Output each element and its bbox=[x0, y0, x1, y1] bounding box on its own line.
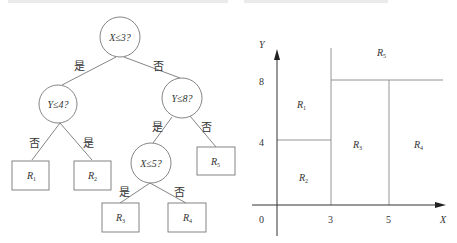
leaf-r1: R1 bbox=[12, 161, 49, 190]
leaf-r2: R2 bbox=[74, 161, 111, 190]
leaf-r3: R3 bbox=[102, 203, 139, 232]
edge-label-no: 否 bbox=[174, 186, 185, 199]
edge-label-yes: 是 bbox=[74, 60, 85, 73]
x-axis-arrow-icon bbox=[435, 202, 446, 208]
edge-label-yes: 是 bbox=[83, 137, 94, 150]
origin-label: 0 bbox=[259, 214, 264, 225]
tree-node-root: X≤3? bbox=[100, 17, 140, 57]
y-axis-arrow-icon bbox=[274, 49, 280, 60]
partition-plot: Y X 0 3 5 8 4 R1 R2 R3 R4 R5 bbox=[252, 39, 447, 236]
node-label: Y≤4? bbox=[47, 99, 68, 110]
region-r1: R1 bbox=[296, 99, 306, 111]
tree-node-left: Y≤4? bbox=[39, 85, 77, 123]
edge-label-yes: 是 bbox=[119, 186, 130, 199]
y-tick-8: 8 bbox=[259, 76, 264, 87]
region-r5: R5 bbox=[376, 47, 386, 59]
leaf-r4: R4 bbox=[168, 203, 206, 232]
x-tick-5: 5 bbox=[386, 214, 391, 225]
y-axis-label: Y bbox=[259, 39, 266, 50]
edge-label-no: 否 bbox=[29, 137, 40, 150]
tree-node-right: Y≤8? bbox=[162, 78, 202, 118]
leaf-r5: R5 bbox=[197, 147, 235, 175]
edge-label-yes: 是 bbox=[152, 121, 163, 134]
edge-label-no: 否 bbox=[153, 60, 164, 73]
region-r4: R4 bbox=[413, 139, 423, 151]
region-r3: R3 bbox=[352, 139, 362, 151]
x-axis-label: X bbox=[439, 214, 447, 225]
node-label: X≤3? bbox=[108, 32, 131, 43]
decision-tree-figure: X≤3? Y≤4? Y≤8? X≤5? 是 否 否 是 是 否 是 否 R1 R… bbox=[0, 0, 457, 243]
y-tick-4: 4 bbox=[259, 137, 264, 148]
node-label: X≤5? bbox=[139, 158, 162, 169]
node-label: Y≤8? bbox=[171, 93, 192, 104]
edge-label-no: 否 bbox=[201, 121, 212, 134]
x-tick-3: 3 bbox=[328, 214, 333, 225]
region-r2: R2 bbox=[298, 172, 308, 184]
tree-node-right-left: X≤5? bbox=[131, 143, 171, 183]
